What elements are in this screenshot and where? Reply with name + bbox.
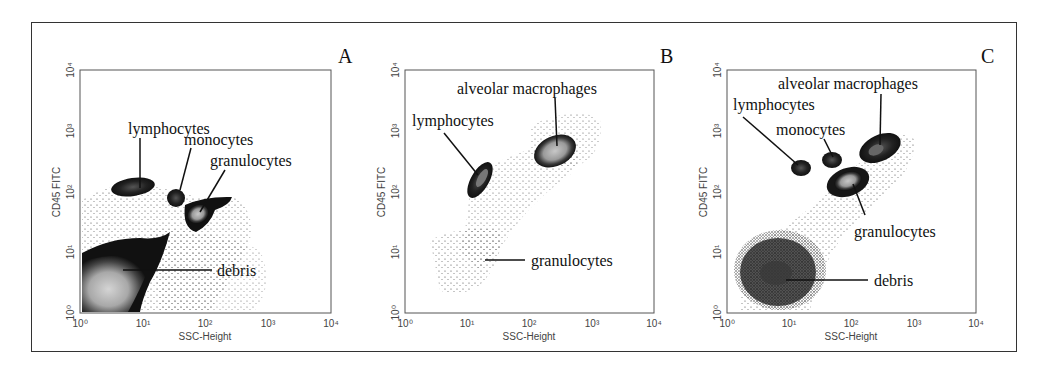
y-axis-c: 10⁰ 10¹ 10² 10³ 10⁴ CD45 FITC <box>698 62 723 320</box>
svg-text:10⁴: 10⁴ <box>65 62 76 77</box>
y-axis-label-b: CD45 FITC <box>376 167 387 218</box>
svg-text:10³: 10³ <box>712 123 723 138</box>
label-granulocytes-b: granulocytes <box>531 252 613 270</box>
x-axis-label-a: SSC-Height <box>179 331 232 342</box>
svg-text:10³: 10³ <box>390 123 401 138</box>
label-alveolar-macrophages-c: alveolar macrophages <box>778 75 918 93</box>
y-axis-label-c: CD45 FITC <box>698 167 709 218</box>
y-axis-label-a: CD45 FITC <box>51 167 62 218</box>
svg-text:10⁴: 10⁴ <box>323 318 338 329</box>
svg-text:10¹: 10¹ <box>65 244 76 259</box>
svg-text:10⁰: 10⁰ <box>712 305 723 320</box>
label-monocytes-a: monocytes <box>184 131 253 149</box>
y-axis-a: 10⁰ 10¹ 10² 10³ 10⁴ CD45 FITC <box>51 62 76 320</box>
label-lymphocytes-c: lymphocytes <box>733 96 815 114</box>
x-axis-c: 10⁰ 10¹ 10² 10³ 10⁴ SSC-Height <box>719 318 983 342</box>
svg-text:10¹: 10¹ <box>460 318 475 329</box>
label-alveolar-macrophages-b: alveolar macrophages <box>457 80 597 98</box>
svg-text:10²: 10² <box>198 318 213 329</box>
label-debris-a: debris <box>217 262 256 279</box>
x-axis-a: 10⁰ 10¹ 10² 10³ 10⁴ SSC-Height <box>72 318 338 342</box>
panel-b: alveolar macrophages lymphocytes granulo… <box>376 45 673 342</box>
svg-text:10³: 10³ <box>585 318 600 329</box>
label-debris-c: debris <box>874 272 913 289</box>
label-granulocytes-a: granulocytes <box>210 152 292 170</box>
panel-c: alveolar macrophages lymphocytes monocyt… <box>698 45 994 342</box>
svg-text:10²: 10² <box>844 318 859 329</box>
flow-cytometry-figure: lymphocytes monocytes granulocytes debri… <box>0 0 1046 372</box>
svg-text:10⁴: 10⁴ <box>968 318 983 329</box>
svg-text:10²: 10² <box>522 318 537 329</box>
x-axis-b: 10⁰ 10¹ 10² 10³ 10⁴ SSC-Height <box>397 318 661 342</box>
panel-a: lymphocytes monocytes granulocytes debri… <box>51 45 353 342</box>
svg-text:10²: 10² <box>65 184 76 199</box>
label-lymphocytes-b: lymphocytes <box>412 112 494 130</box>
label-granulocytes-c: granulocytes <box>854 223 936 241</box>
svg-text:10¹: 10¹ <box>782 318 797 329</box>
svg-text:10³: 10³ <box>261 318 276 329</box>
svg-text:10³: 10³ <box>65 123 76 138</box>
svg-text:10⁴: 10⁴ <box>646 318 661 329</box>
svg-text:10¹: 10¹ <box>136 318 151 329</box>
svg-text:10²: 10² <box>390 184 401 199</box>
svg-text:10⁰: 10⁰ <box>65 305 76 320</box>
svg-text:10⁰: 10⁰ <box>390 305 401 320</box>
panel-letter-b: B <box>660 45 673 67</box>
panel-letter-a: A <box>338 45 353 67</box>
x-axis-label-c: SSC-Height <box>825 331 878 342</box>
panel-letter-c: C <box>981 45 994 67</box>
x-axis-label-b: SSC-Height <box>503 331 556 342</box>
label-monocytes-c: monocytes <box>776 121 845 139</box>
svg-text:10²: 10² <box>712 184 723 199</box>
y-axis-b: 10⁰ 10¹ 10² 10³ 10⁴ CD45 FITC <box>376 62 401 320</box>
svg-text:10³: 10³ <box>907 318 922 329</box>
svg-text:10¹: 10¹ <box>390 244 401 259</box>
svg-text:10¹: 10¹ <box>712 244 723 259</box>
svg-text:10⁴: 10⁴ <box>712 62 723 77</box>
svg-text:10⁴: 10⁴ <box>390 62 401 77</box>
